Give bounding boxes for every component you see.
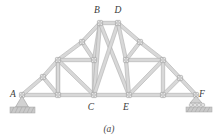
truss-member (163, 93, 196, 96)
truss-pin-joint (97, 20, 102, 25)
pin-circle-icon (139, 41, 142, 44)
truss-member (161, 60, 164, 95)
pin-circle-icon (128, 94, 131, 97)
truss-pin-joint (91, 57, 96, 62)
joint-label-b: B (94, 5, 100, 15)
truss-member (58, 58, 94, 61)
truss-pin-joint (91, 92, 96, 97)
truss-diagram-canvas: ABCDEF (a) (0, 0, 219, 139)
truss-member (56, 60, 59, 95)
truss-pin-joint (177, 75, 182, 80)
figure-background (0, 0, 219, 139)
pin-circle-icon (57, 59, 60, 62)
joint-label-e: E (122, 102, 129, 112)
truss-member (129, 93, 163, 96)
pin-circle-icon (42, 76, 45, 79)
pin-circle-icon (93, 94, 96, 97)
truss-pin-joint (160, 92, 165, 97)
joint-label-f: F (198, 89, 205, 99)
joint-label-c: C (88, 102, 95, 112)
truss-pin-joint (79, 39, 84, 44)
joint-label-a: A (9, 89, 16, 99)
joint-label-d: D (114, 5, 122, 15)
truss-member (58, 93, 94, 96)
pin-circle-icon (99, 22, 102, 25)
pin-circle-icon (162, 94, 165, 97)
truss-pin-joint (40, 74, 45, 79)
truss-pin-joint (55, 92, 60, 97)
truss-member (22, 93, 58, 96)
ground-hatch-block-F (186, 107, 212, 112)
pin-circle-icon (125, 59, 128, 62)
pin-circle-icon (81, 41, 84, 44)
pin-circle-icon (179, 77, 182, 80)
truss-member (126, 58, 163, 61)
truss-pin-joint (115, 20, 120, 25)
truss-member (94, 93, 129, 96)
pin-circle-icon (117, 22, 120, 25)
pin-circle-icon (162, 59, 165, 62)
truss-pin-joint (123, 57, 128, 62)
pin-circle-icon (57, 94, 60, 97)
truss-pin-joint (160, 57, 165, 62)
truss-pin-joint (126, 92, 131, 97)
truss-pin-joint (137, 39, 142, 44)
figure-caption: (a) (103, 124, 114, 135)
pin-circle-icon (93, 59, 96, 62)
truss-pin-joint (55, 57, 60, 62)
truss-figure: ABCDEF (a) (0, 0, 219, 139)
